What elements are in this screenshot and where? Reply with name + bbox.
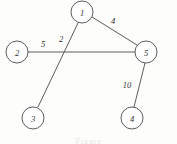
graph-canvas: 1 2 3 4 5 4 5 2 10 — [0, 0, 177, 144]
node-3-label: 3 — [30, 114, 35, 124]
node-3[interactable]: 3 — [22, 107, 44, 129]
node-2[interactable]: 2 — [6, 41, 28, 63]
edge-weight-1-5: 4 — [111, 16, 116, 26]
edge-weight-group: 4 5 2 10 — [41, 16, 132, 90]
figure-container: 1 2 3 4 5 4 5 2 10 — [0, 0, 177, 144]
node-1-label: 1 — [80, 8, 84, 18]
node-4[interactable]: 4 — [121, 107, 143, 129]
edge-weight-5-4: 10 — [123, 80, 132, 90]
node-1[interactable]: 1 — [71, 1, 93, 23]
node-5[interactable]: 5 — [135, 41, 157, 63]
edge-group — [28, 17, 145, 107]
node-5-label: 5 — [144, 48, 148, 58]
edge-5-4 — [134, 63, 145, 107]
edge-weight-2-5: 5 — [41, 39, 45, 49]
node-group: 1 2 3 4 5 — [6, 1, 157, 129]
edge-weight-1-3: 2 — [59, 34, 64, 44]
